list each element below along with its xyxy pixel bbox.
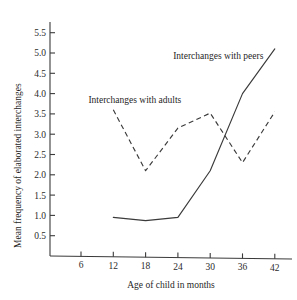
y-tick-label: 4.0: [34, 89, 46, 99]
y-tick-label: 1.5: [34, 191, 46, 201]
y-axis-title: Mean frequency of elaborated interchange…: [13, 83, 23, 248]
series-annotation-1: Interchanges with adults: [88, 95, 181, 105]
x-tick-label: 42: [270, 263, 280, 273]
y-tick-label: 3.5: [34, 109, 46, 119]
chart-figure: 0.51.01.52.02.53.03.54.04.55.05.5 Mean f…: [0, 0, 297, 300]
series-annotations: Interchanges with peersInterchanges with…: [88, 51, 263, 104]
line-chart: 0.51.01.52.02.53.03.54.04.55.05.5 Mean f…: [0, 0, 297, 300]
series-line-adults: [113, 110, 274, 171]
series-line-peers: [113, 49, 274, 221]
x-axis-line: [50, 256, 292, 259]
y-tick-label: 3.0: [34, 130, 46, 140]
y-axis: 0.51.01.52.02.53.03.54.04.55.05.5 Mean f…: [13, 22, 55, 256]
y-tick-label: 2.0: [34, 170, 46, 180]
y-tick-label: 1.0: [34, 211, 46, 221]
x-tick-label: 30: [205, 262, 215, 272]
data-series-group: [113, 49, 274, 221]
x-tick-label: 6: [79, 260, 84, 270]
x-axis-tick-labels: 6121824303642: [79, 260, 280, 272]
y-tick-label: 0.5: [34, 231, 46, 241]
y-tick-label: 5.0: [34, 48, 46, 58]
x-tick-label: 24: [173, 262, 183, 272]
y-tick-label: 2.5: [34, 150, 46, 160]
y-axis-ticks: [50, 33, 55, 236]
x-tick-label: 12: [109, 261, 119, 271]
x-tick-label: 18: [141, 261, 151, 271]
x-axis: 6121824303642 Age of child in months: [50, 251, 292, 290]
series-annotation-0: Interchanges with peers: [173, 51, 264, 61]
x-tick-label: 36: [238, 262, 248, 272]
y-axis-tick-labels: 0.51.01.52.02.53.03.54.04.55.05.5: [34, 28, 46, 241]
y-tick-label: 4.5: [34, 69, 46, 79]
x-axis-title: Age of child in months: [127, 280, 215, 290]
y-tick-label: 5.5: [34, 28, 46, 38]
